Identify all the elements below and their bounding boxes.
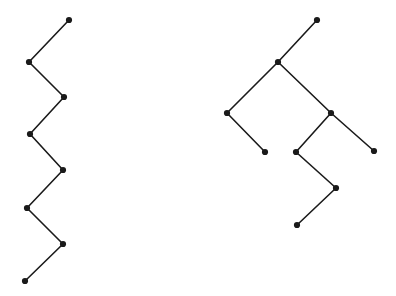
graph-node (333, 185, 339, 191)
graph-node (66, 17, 72, 23)
graph-node (224, 110, 230, 116)
graph-node (294, 222, 300, 228)
graph-node (328, 110, 334, 116)
graph-node (26, 59, 32, 65)
graph-node (293, 149, 299, 155)
graph-node (262, 149, 268, 155)
graph-node (24, 205, 30, 211)
graph-node (22, 278, 28, 284)
canvas-background (0, 0, 396, 296)
graph-node (60, 167, 66, 173)
graph-node (27, 131, 33, 137)
graph-node (60, 241, 66, 247)
graph-node (371, 148, 377, 154)
graph-diagram-canvas (0, 0, 396, 296)
graph-node (314, 17, 320, 23)
graph-node (275, 59, 281, 65)
graph-node (61, 94, 67, 100)
